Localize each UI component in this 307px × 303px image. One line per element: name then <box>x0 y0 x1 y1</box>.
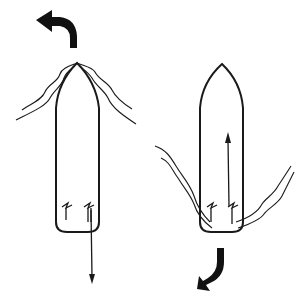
diagram-canvas: Twin-propeller boat: forward vs. reverse… <box>0 0 307 303</box>
diagram-svg <box>0 0 307 303</box>
boat-hull-right <box>200 64 243 232</box>
turn-arrow-up-left-icon <box>36 10 77 48</box>
turn-arrow-down-left-icon <box>197 248 224 291</box>
left-panel <box>16 10 136 284</box>
right-panel <box>155 64 294 291</box>
